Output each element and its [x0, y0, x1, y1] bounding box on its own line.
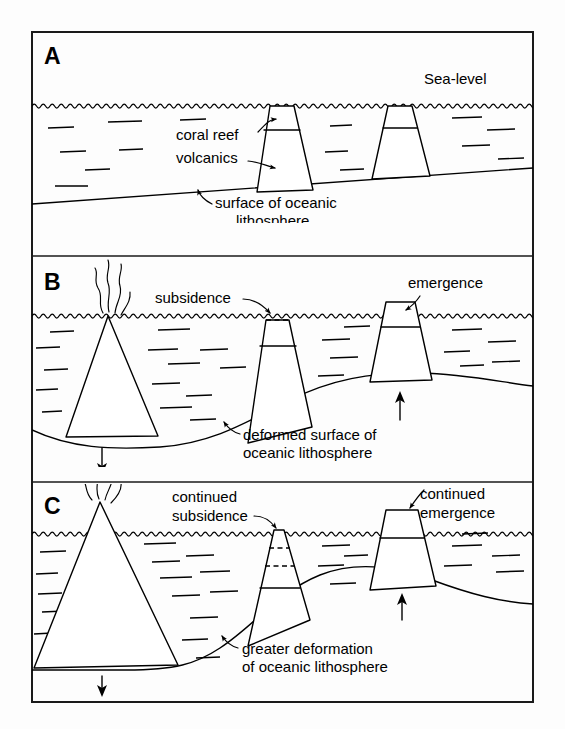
label-sea-level: Sea-level [424, 70, 487, 87]
label-deformed-surface-line1: deformed surface of [243, 426, 377, 443]
label-greater-deformation-line2: of oceanic lithosphere [242, 658, 388, 675]
label-greater-deformation-line1: greater deformation [242, 640, 373, 657]
geology-figure: A [0, 0, 565, 729]
panel-b-letter: B [44, 269, 61, 295]
label-emergence: emergence [408, 274, 483, 291]
panel-a-letter: A [44, 43, 61, 69]
figure-page: A [0, 0, 565, 729]
label-lithosphere-surface-line1: surface of oceanic [215, 194, 337, 211]
label-subsidence: subsidence [155, 289, 231, 306]
label-continued-emergence-line2: emergence [420, 504, 495, 521]
panel-c-letter: C [44, 493, 61, 519]
label-continued-emergence-line1: continued [420, 485, 485, 502]
label-coral-reef: coral reef [176, 126, 239, 143]
label-volcanics: volcanics [176, 149, 238, 166]
label-continued-subsidence-line1: continued [172, 488, 237, 505]
label-deformed-surface-line2: oceanic lithosphere [243, 444, 372, 461]
label-continued-subsidence-line2: subsidence [172, 507, 248, 524]
